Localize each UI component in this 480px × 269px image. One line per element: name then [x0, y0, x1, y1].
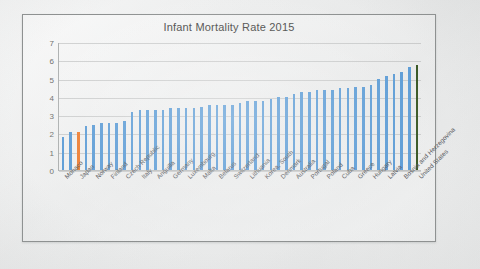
bar-slot [221, 43, 229, 170]
y-axis-tick-label: 0 [50, 167, 54, 176]
chart-title: Infant Mortality Rate 2015 [23, 21, 435, 33]
bar-slot [175, 43, 183, 170]
bar[interactable] [408, 67, 411, 170]
bar[interactable] [416, 65, 419, 170]
bar-slot [198, 43, 206, 170]
bar-slot [398, 43, 406, 170]
bar-slot [105, 43, 113, 170]
y-axis-tick-label: 3 [50, 112, 54, 121]
bar-slot [90, 43, 98, 170]
bar-series [59, 43, 421, 170]
bar-slot [167, 43, 175, 170]
y-axis-tick-label: 4 [50, 93, 54, 102]
y-axis-tick-label: 5 [50, 75, 54, 84]
bar[interactable] [85, 126, 88, 170]
bar-slot [390, 43, 398, 170]
bar-slot [74, 43, 82, 170]
bar-slot [98, 43, 106, 170]
bar-slot [267, 43, 275, 170]
bar[interactable] [393, 74, 396, 170]
bar-slot [182, 43, 190, 170]
bar[interactable] [92, 125, 95, 170]
bar-slot [406, 43, 414, 170]
bar[interactable] [385, 76, 388, 170]
bar-slot [213, 43, 221, 170]
bar[interactable] [362, 87, 365, 170]
bar-slot [352, 43, 360, 170]
bar[interactable] [370, 85, 373, 170]
bar-slot [413, 43, 421, 170]
bar-slot [113, 43, 121, 170]
bar-slot [228, 43, 236, 170]
bar[interactable] [223, 105, 226, 170]
bar[interactable] [316, 90, 319, 170]
bar-slot [121, 43, 129, 170]
bar[interactable] [115, 123, 118, 170]
bar[interactable] [177, 108, 180, 170]
bar[interactable] [239, 103, 242, 170]
bar[interactable] [300, 92, 303, 170]
bar[interactable] [400, 72, 403, 170]
bar[interactable] [339, 88, 342, 170]
bar-slot [313, 43, 321, 170]
x-axis-labels: MonacoJapanNorwayFinlandCzech RepublicIt… [59, 173, 421, 239]
bar[interactable] [131, 112, 134, 170]
bar[interactable] [347, 88, 350, 170]
bar-slot [329, 43, 337, 170]
bar-slot [59, 43, 67, 170]
bar[interactable] [154, 110, 157, 170]
plot-area: 01234567 [59, 43, 421, 171]
bar-slot [321, 43, 329, 170]
bar-slot [375, 43, 383, 170]
bar-slot [344, 43, 352, 170]
bar-slot [336, 43, 344, 170]
bar-slot [275, 43, 283, 170]
y-axis-tick-label: 6 [50, 57, 54, 66]
bar-slot [306, 43, 314, 170]
bar-slot [128, 43, 136, 170]
bar-slot [136, 43, 144, 170]
bar[interactable] [377, 79, 380, 170]
bar[interactable] [69, 132, 72, 170]
y-axis-tick-label: 1 [50, 148, 54, 157]
bar[interactable] [354, 87, 357, 170]
bar[interactable] [62, 137, 65, 170]
y-axis-tick-label: 2 [50, 130, 54, 139]
bar-slot [383, 43, 391, 170]
bar-slot [259, 43, 267, 170]
y-axis-tick-label: 7 [50, 39, 54, 48]
bar[interactable] [216, 105, 219, 170]
bar[interactable] [162, 110, 165, 170]
bar-slot [67, 43, 75, 170]
bar-slot [190, 43, 198, 170]
bar-slot [367, 43, 375, 170]
chart-frame: Infant Mortality Rate 2015 01234567 Mona… [22, 14, 436, 242]
bar-slot [359, 43, 367, 170]
bar-slot [298, 43, 306, 170]
bar[interactable] [331, 90, 334, 170]
bar-slot [236, 43, 244, 170]
bar-slot [244, 43, 252, 170]
bar-slot [82, 43, 90, 170]
bar-slot [159, 43, 167, 170]
bar[interactable] [100, 123, 103, 170]
